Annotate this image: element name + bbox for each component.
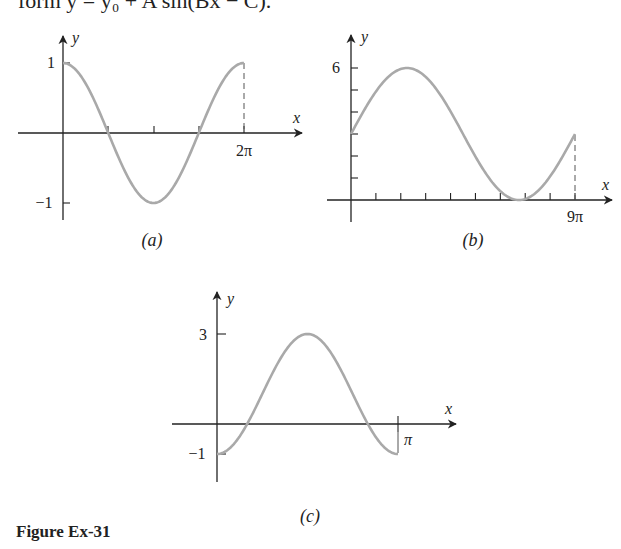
curve-b [351, 68, 575, 200]
x-ticks [376, 193, 575, 200]
x-axis-label: x [292, 109, 300, 126]
x-axis-label: x [444, 400, 452, 417]
graph-a: 1 −1 2π x y (a) [18, 29, 302, 251]
y-tick-label-neg1: −1 [188, 445, 205, 462]
panel-label-c: (c) [300, 506, 320, 527]
y-axis-label: y [359, 28, 369, 46]
panel-label-b: (b) [463, 230, 484, 251]
x-tick-label-2pi: 2π [236, 142, 252, 159]
panel-label-a: (a) [142, 230, 163, 251]
y-tick-label-3: 3 [199, 326, 207, 343]
y-tick-label-6: 6 [332, 59, 340, 76]
x-tick-label-9pi: 9π [567, 208, 583, 225]
x-tick-label-pi: π [404, 431, 413, 448]
y-axis-label: y [70, 29, 80, 47]
y-ticks [217, 334, 226, 454]
figure-page: form y = y₀ + A sin(Bx − C). 1 [0, 0, 621, 549]
curve-c [217, 334, 398, 454]
y-tick-label-1: 1 [47, 54, 55, 71]
graph-b: 6 9π x y (b) [327, 28, 612, 251]
x-axis-label: x [601, 176, 609, 193]
y-tick-label-neg1: −1 [35, 194, 52, 211]
graph-c: 3 −1 π x y (c) [172, 290, 456, 527]
figure-graphs: 1 −1 2π x y (a) 6 9π x y (b) [0, 0, 621, 549]
y-axis-label: y [225, 290, 235, 308]
figure-caption: Figure Ex-31 [16, 522, 111, 542]
x-ticks [108, 126, 244, 133]
